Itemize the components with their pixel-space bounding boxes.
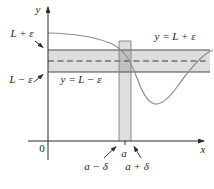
l-plus-eps-label: L + ε <box>9 27 34 39</box>
pointer-a-minus-delta <box>104 147 116 159</box>
y-axis-label: y <box>35 3 41 15</box>
a-minus-delta-label: a − δ <box>84 160 108 172</box>
x-axis-label: x <box>200 143 206 155</box>
diagram-svg: y x 0 L + ε L − ε y = L + ε y = L − ε a … <box>0 0 214 189</box>
origin-label: 0 <box>39 142 45 154</box>
l-minus-eps-label: L − ε <box>8 73 33 85</box>
pointer-l-plus-eps <box>35 41 43 48</box>
a-label: a <box>121 147 127 159</box>
line-bottom-label: y = L − ε <box>60 73 103 85</box>
a-plus-delta-label: a + δ <box>125 160 149 172</box>
pointer-l-minus-eps <box>34 75 43 83</box>
delta-strip <box>119 41 131 141</box>
limit-definition-diagram: y x 0 L + ε L − ε y = L + ε y = L − ε a … <box>0 0 214 189</box>
line-top-label: y = L + ε <box>154 30 197 42</box>
pointer-a-plus-delta <box>134 147 141 159</box>
